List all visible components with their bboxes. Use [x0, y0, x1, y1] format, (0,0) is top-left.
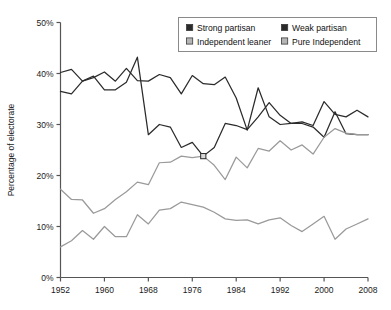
- crossing-marker: [201, 154, 206, 159]
- x-tick-label: 1976: [183, 285, 202, 295]
- x-tick-label: 1968: [139, 285, 158, 295]
- y-tick-label: 10%: [36, 222, 53, 232]
- y-tick-label: 0%: [41, 273, 54, 283]
- x-tick-label: 1952: [51, 285, 70, 295]
- y-tick-label: 40%: [36, 69, 53, 79]
- x-tick-label: 2000: [315, 285, 334, 295]
- axis-group: [57, 23, 369, 282]
- chart-legend: Strong partisanWeak partisanIndependent …: [179, 18, 377, 52]
- y-tick-label: 20%: [36, 171, 53, 181]
- tick-label-group: 0%10%20%30%40%50%19521960196819761984199…: [36, 18, 377, 295]
- y-tick-label: 50%: [36, 18, 53, 28]
- legend-swatch-strong-partisan: [187, 24, 193, 30]
- series-line-pure-independent: [61, 202, 369, 247]
- x-tick-label: 1984: [227, 285, 246, 295]
- legend-swatch-weak-partisan: [282, 24, 288, 30]
- y-axis-title-text: Percentage of electorate: [6, 103, 16, 196]
- x-tick-label: 1992: [271, 285, 290, 295]
- series-group: [61, 57, 369, 247]
- legend-swatch-independent-leaner: [187, 38, 193, 44]
- y-axis-title: Percentage of electorate: [6, 103, 16, 196]
- y-tick-label: 30%: [36, 120, 53, 130]
- legend-swatch-pure-independent: [282, 38, 288, 44]
- chart-container: 0%10%20%30%40%50%19521960196819761984199…: [0, 0, 391, 310]
- legend-label-pure-independent: Pure Independent: [292, 37, 361, 47]
- legend-label-independent-leaner: Independent leaner: [197, 37, 271, 47]
- x-tick-label: 2008: [359, 285, 378, 295]
- series-line-independent-leaner: [61, 129, 369, 214]
- x-tick-label: 1960: [95, 285, 114, 295]
- line-chart: 0%10%20%30%40%50%19521960196819761984199…: [0, 0, 391, 310]
- series-line-weak-partisan: [61, 68, 369, 137]
- legend-label-weak-partisan: Weak partisan: [292, 23, 347, 33]
- legend-label-strong-partisan: Strong partisan: [197, 23, 256, 33]
